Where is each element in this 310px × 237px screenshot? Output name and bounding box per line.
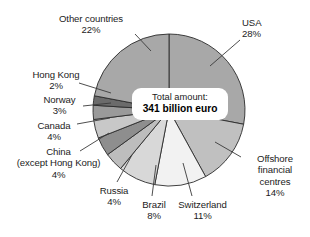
slice-label-offshore-pct: 14% [244,187,306,198]
slice-label-other-countries-name: Other countries [59,13,123,24]
slice-label-usa: USA 28% [242,17,292,40]
slice-label-hong-kong-name: Hong Kong [32,69,79,80]
slice-label-russia-name: Russia [100,185,129,196]
slice-label-usa-pct: 28% [242,28,292,39]
slice-label-china-pct: 4% [2,169,115,180]
slice-label-switzerland-pct: 11% [166,210,239,221]
slice-label-china-name: China [46,146,71,157]
slice-label-china-name2: (except Hong Kong) [2,157,115,168]
slice-label-canada-pct: 4% [18,131,90,142]
slice-label-norway-name: Norway [44,94,76,105]
slice-label-canada: Canada 4% [18,120,90,143]
slice-label-hong-kong-pct: 2% [13,80,99,91]
slice-label-china: China (except Hong Kong) 4% [2,146,115,180]
slice-label-norway: Norway 3% [20,94,99,117]
slice-label-offshore-financial-centres: Offshore financial centres 14% [244,153,306,199]
total-amount-callout: Total amount: 341 billion euro [132,88,228,120]
slice-label-offshore-name: Offshore [257,153,293,164]
slice-label-hong-kong: Hong Kong 2% [13,69,99,92]
slice-label-canada-name: Canada [37,120,70,131]
slice-label-offshore-name3: centres [244,176,306,187]
total-amount-caption: Total amount: [139,92,221,103]
slice-label-offshore-name2: financial [244,164,306,175]
slice-label-other-countries-pct: 22% [36,24,146,35]
slice-label-usa-name: USA [242,17,261,28]
slice-label-brazil-name: Brazil [142,199,165,210]
pie-chart-figure: Other countries 22% USA 28% Hong Kong 2%… [0,0,310,237]
slice-label-other-countries: Other countries 22% [36,13,146,36]
slice-label-switzerland: Switzerland 11% [166,199,239,222]
total-amount-value: 341 billion euro [139,103,221,115]
slice-label-norway-pct: 3% [20,105,99,116]
slice-label-switzerland-name: Switzerland [178,199,227,210]
